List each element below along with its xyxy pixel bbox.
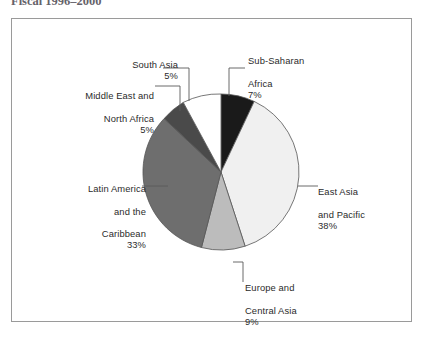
pie-label-sub-saharan-africa: Sub-Saharan Africa 7% [248, 44, 344, 111]
leader-line-sub-saharan [229, 68, 245, 96]
pie-label-sub-saharan-percent: 7% [248, 89, 344, 100]
pie-label-latin-america-percent: 33% [30, 239, 146, 250]
pie-label-latin-america-caribbean: Latin America and the Caribbean 33% [30, 172, 146, 262]
pie-label-europe-line2: Central Asia [245, 305, 297, 316]
pie-chart [0, 0, 426, 340]
pie-label-europe-central-asia: Europe and Central Asia 9% [245, 271, 341, 338]
pie-label-east-asia-line1: East Asia [318, 186, 358, 197]
pie-label-sub-saharan-line2: Africa [248, 78, 273, 89]
pie-label-east-asia-percent: 38% [318, 220, 410, 231]
pie-label-middle-east-north-africa: Middle East and North Africa 5% [50, 79, 154, 146]
pie-label-europe-line1: Europe and [245, 282, 294, 293]
pie-label-middle-east-percent: 5% [50, 124, 154, 135]
pie-label-east-asia-pacific: East Asia and Pacific 38% [318, 175, 410, 242]
figure-root: Fiscal 1996–2000 South A [0, 0, 426, 340]
pie-slices [143, 94, 299, 250]
pie-label-middle-east-line1: Middle East and [85, 90, 154, 101]
leader-line-europe [233, 262, 243, 282]
pie-label-latin-america-line3: Caribbean [102, 228, 146, 239]
pie-label-east-asia-line2: and Pacific [318, 209, 365, 220]
pie-label-south-asia-line1: South Asia [132, 59, 178, 70]
pie-label-middle-east-line2: North Africa [104, 113, 154, 124]
pie-label-europe-percent: 9% [245, 316, 341, 327]
pie-label-latin-america-line1: Latin America [88, 183, 146, 194]
pie-label-sub-saharan-line1: Sub-Saharan [248, 55, 304, 66]
pie-label-latin-america-line2: and the [114, 206, 146, 217]
